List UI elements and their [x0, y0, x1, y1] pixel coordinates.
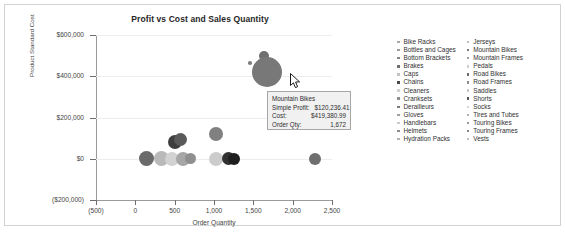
legend-item[interactable]: Mountain Frames [467, 54, 523, 62]
y-axis-tick-label: $400,000 [5, 72, 84, 79]
bubble-datapoint[interactable] [252, 57, 282, 87]
legend-swatch-icon [397, 81, 400, 84]
tooltip-title: Mountain Bikes [272, 95, 346, 104]
bubble-datapoint[interactable] [139, 151, 154, 166]
legend-item-label: Mountain Bikes [473, 46, 517, 54]
legend-item[interactable]: Cranksets [397, 95, 456, 103]
legend-swatch-icon [397, 73, 400, 76]
gridline [96, 76, 332, 77]
legend-item[interactable]: Road Frames [467, 78, 523, 86]
legend-item[interactable]: Chains [397, 78, 456, 86]
legend-swatch-icon [467, 41, 470, 44]
legend-swatch-icon [397, 106, 400, 109]
legend-item-label: Caps [404, 70, 419, 78]
x-axis-tick [214, 200, 215, 205]
legend-item[interactable]: Handlebars [397, 119, 456, 127]
legend-item-label: Vests [473, 135, 489, 143]
bubble-datapoint[interactable] [174, 133, 187, 146]
legend-item[interactable]: Derailleurs [397, 103, 456, 111]
legend-item[interactable]: Tires and Tubes [467, 111, 523, 119]
bubble-datapoint[interactable] [248, 61, 252, 65]
x-axis-tick-label: 2,000 [273, 207, 313, 214]
legend: Bike RacksBottles and CagesBottom Bracke… [397, 38, 563, 143]
legend-item[interactable]: Helmets [397, 127, 456, 135]
legend-item[interactable]: Road Bikes [467, 70, 523, 78]
legend-swatch-icon [397, 97, 400, 100]
legend-item[interactable]: Socks [467, 103, 523, 111]
legend-item-label: Mountain Frames [473, 54, 523, 62]
chart-title: Profit vs Cost and Sales Quantity [5, 14, 395, 24]
legend-item-label: Bike Racks [404, 38, 436, 46]
legend-swatch-icon [467, 130, 470, 133]
legend-item[interactable]: Pedals [467, 62, 523, 70]
legend-swatch-icon [397, 130, 400, 133]
legend-item[interactable]: Saddles [467, 87, 523, 95]
x-axis-tick [332, 200, 333, 205]
x-axis-tick-label: (500) [76, 207, 116, 214]
legend-swatch-icon [467, 114, 470, 117]
legend-item-label: Tires and Tubes [473, 111, 519, 119]
y-axis-title: Product Standard Cost [28, 14, 35, 77]
legend-item-label: Bottom Brackets [404, 54, 451, 62]
legend-swatch-icon [397, 138, 400, 141]
legend-item-label: Shorts [473, 95, 491, 103]
bubble-datapoint[interactable] [309, 153, 321, 165]
tooltip-profit-value: $120,236.41 [311, 104, 349, 113]
legend-item[interactable]: Gloves [397, 111, 456, 119]
legend-item[interactable]: Touring Bikes [467, 119, 523, 127]
legend-item-label: Road Frames [473, 78, 512, 86]
legend-item-label: Brakes [404, 62, 424, 70]
datapoint-tooltip: Mountain Bikes Simple Profit: $120,236.4… [267, 91, 351, 130]
x-axis-tick [96, 200, 97, 205]
legend-item-label: Touring Frames [473, 127, 517, 135]
legend-item[interactable]: Cleaners [397, 87, 456, 95]
bubble-datapoint[interactable] [209, 127, 223, 141]
legend-column-2: JerseysMountain BikesMountain FramesPeda… [467, 38, 523, 143]
legend-item[interactable]: Touring Frames [467, 127, 523, 135]
x-axis-tick [293, 200, 294, 205]
legend-item-label: Socks [473, 103, 490, 111]
legend-swatch-icon [467, 97, 470, 100]
bubble-chart-visual: Profit vs Cost and Sales Quantity $600,0… [0, 0, 565, 238]
legend-swatch-icon [467, 49, 470, 52]
legend-item-label: Pedals [473, 62, 493, 70]
x-axis-tick [175, 200, 176, 205]
legend-item[interactable]: Hydration Packs [397, 135, 456, 143]
chart-panel: Profit vs Cost and Sales Quantity $600,0… [4, 4, 561, 226]
y-axis-tick [90, 35, 96, 36]
legend-swatch-icon [397, 41, 400, 44]
x-axis-tick-label: 1,000 [194, 207, 234, 214]
legend-item-label: Handlebars [404, 119, 437, 127]
legend-item[interactable]: Jerseys [467, 38, 523, 46]
legend-item-label: Cranksets [404, 95, 433, 103]
legend-item[interactable]: Bottom Brackets [397, 54, 456, 62]
legend-item-label: Gloves [404, 111, 424, 119]
legend-item[interactable]: Caps [397, 70, 456, 78]
x-axis-tick-label: 500 [155, 207, 195, 214]
legend-item[interactable]: Shorts [467, 95, 523, 103]
legend-swatch-icon [467, 81, 470, 84]
legend-swatch-icon [467, 138, 470, 141]
legend-item[interactable]: Mountain Bikes [467, 46, 523, 54]
bubble-datapoint[interactable] [228, 153, 240, 165]
y-axis-tick [90, 159, 96, 160]
legend-item-label: Touring Bikes [473, 119, 511, 127]
legend-swatch-icon [467, 106, 470, 109]
legend-swatch-icon [467, 57, 470, 60]
x-axis-tick [135, 200, 136, 205]
legend-item-label: Cleaners [404, 87, 430, 95]
tooltip-cost-row: Cost: $419,380.99 [272, 112, 346, 121]
legend-swatch-icon [397, 65, 400, 68]
legend-swatch-icon [467, 89, 470, 92]
tooltip-qty-value: 1,672 [327, 121, 346, 130]
legend-item[interactable]: Vests [467, 135, 523, 143]
legend-item[interactable]: Bike Racks [397, 38, 456, 46]
y-axis-tick [90, 76, 96, 77]
legend-item[interactable]: Brakes [397, 62, 456, 70]
tooltip-cost-value: $419,380.99 [308, 112, 346, 121]
legend-item[interactable]: Bottles and Cages [397, 46, 456, 54]
tooltip-qty-label: Order Qty: [272, 121, 301, 130]
legend-item-label: Saddles [473, 87, 496, 95]
bubble-datapoint[interactable] [185, 153, 196, 164]
x-axis-title: Order Quantity [92, 219, 336, 226]
